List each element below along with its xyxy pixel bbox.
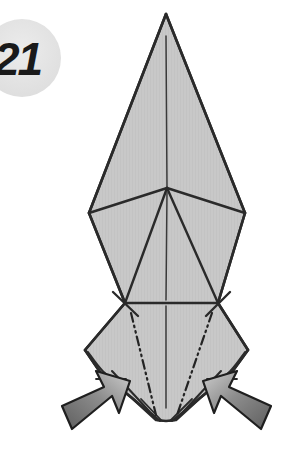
center-axis-crease-upper [166, 36, 167, 188]
origami-step-diagram: 21 [0, 0, 282, 452]
origami-model [85, 14, 248, 421]
center-axis-crease-middle [166, 192, 167, 300]
origami-diagram-page: 21 [0, 0, 282, 452]
step-number-label: 21 [0, 33, 42, 85]
step-number-badge: 21 [0, 19, 61, 97]
